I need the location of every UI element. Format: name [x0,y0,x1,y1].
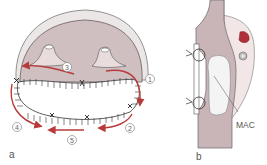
figure: 1 2 3 4 5 a MAC b [0,0,267,165]
step-3: 3 [65,64,69,71]
wound-opening [17,79,139,119]
panel-label-a: a [9,149,15,160]
panel-label-b: b [196,151,202,162]
suture-loop [194,44,199,114]
step-5: 5 [70,137,74,144]
mac-mass [208,56,230,115]
step-4: 4 [15,124,19,131]
panel-a: 1 2 3 4 5 a [9,10,155,160]
step-1: 1 [148,76,152,83]
step-2: 2 [128,125,132,132]
mac-label: MAC [236,120,255,130]
panel-b: MAC b [186,0,255,162]
